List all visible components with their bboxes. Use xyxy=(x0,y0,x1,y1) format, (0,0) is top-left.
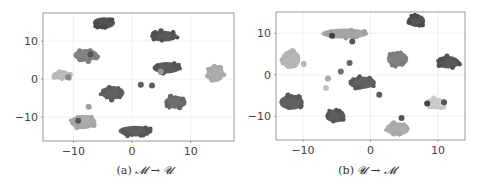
data-point xyxy=(347,60,353,66)
caption-b: (b) 𝓤 → 𝓜 xyxy=(322,164,412,177)
data-point xyxy=(325,75,331,81)
data-point xyxy=(323,85,329,91)
y-tick-label: 10 xyxy=(24,35,38,48)
caption-a-math: 𝓜 → 𝓤 xyxy=(135,164,173,177)
x-tick-label: 10 xyxy=(184,145,198,158)
y-tick-label: 10 xyxy=(257,27,271,40)
tick-labels: −10010−10010 xyxy=(248,27,445,157)
data-point xyxy=(424,100,430,106)
x-tick-label: 10 xyxy=(431,144,445,157)
caption-b-prefix: (b) xyxy=(338,164,354,177)
data-point xyxy=(75,118,81,124)
subplot-b: −10010−10010 (b) 𝓤 → 𝓜 xyxy=(240,0,479,193)
data-point xyxy=(329,33,335,39)
data-point xyxy=(149,83,155,89)
x-tick-label: −10 xyxy=(291,144,314,157)
y-tick-label: −10 xyxy=(15,111,38,124)
data-point xyxy=(86,104,92,110)
data-point xyxy=(138,82,144,88)
data-point xyxy=(338,68,344,74)
caption-a: (a) 𝓜 → 𝓤 xyxy=(100,164,190,177)
outlier-points xyxy=(301,33,447,121)
x-tick-label: 0 xyxy=(367,144,374,157)
y-tick-label: 0 xyxy=(264,69,271,82)
caption-a-prefix: (a) xyxy=(117,164,132,177)
data-point xyxy=(376,92,382,98)
data-point xyxy=(399,115,405,121)
x-tick-label: −10 xyxy=(62,145,85,158)
data-point xyxy=(441,99,447,105)
data-point xyxy=(349,39,355,45)
subplot-a: −10010−10010 (a) 𝓜 → 𝓤 xyxy=(0,0,240,193)
data-point xyxy=(65,74,71,80)
y-tick-label: −10 xyxy=(248,110,271,123)
data-point xyxy=(158,69,164,75)
y-tick-label: 0 xyxy=(31,73,38,86)
caption-b-math: 𝓤 → 𝓜 xyxy=(357,164,395,177)
data-point xyxy=(301,61,307,67)
x-tick-label: 0 xyxy=(129,145,136,158)
data-point xyxy=(87,51,93,57)
